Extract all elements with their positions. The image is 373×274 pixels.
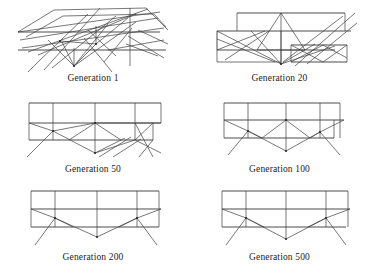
panel-generation-100: Generation 100 <box>186 95 373 185</box>
panel-grid: Generation 1 <box>0 0 373 274</box>
panel-generation-200: Generation 200 <box>0 185 186 274</box>
figure-root: Generation 1 <box>0 0 373 274</box>
panel-caption-generation-500: Generation 500 <box>249 253 310 263</box>
panel-caption-generation-20: Generation 20 <box>251 74 307 84</box>
truss-drawing-generation-100 <box>200 95 360 165</box>
panel-caption-generation-50: Generation 50 <box>65 165 121 175</box>
truss-drawing-generation-50 <box>13 95 173 165</box>
truss-drawing-generation-500 <box>200 185 360 253</box>
panel-generation-50: Generation 50 <box>0 95 186 185</box>
panel-generation-20: Generation 20 <box>186 0 373 95</box>
panel-generation-1: Generation 1 <box>0 0 186 95</box>
truss-drawing-generation-20 <box>195 0 365 74</box>
panel-caption-generation-100: Generation 100 <box>249 165 310 175</box>
truss-drawing-generation-1 <box>8 0 178 74</box>
truss-drawing-generation-200 <box>13 185 173 253</box>
panel-caption-generation-200: Generation 200 <box>63 253 124 263</box>
panel-caption-generation-1: Generation 1 <box>67 74 118 84</box>
panel-generation-500: Generation 500 <box>186 185 373 274</box>
